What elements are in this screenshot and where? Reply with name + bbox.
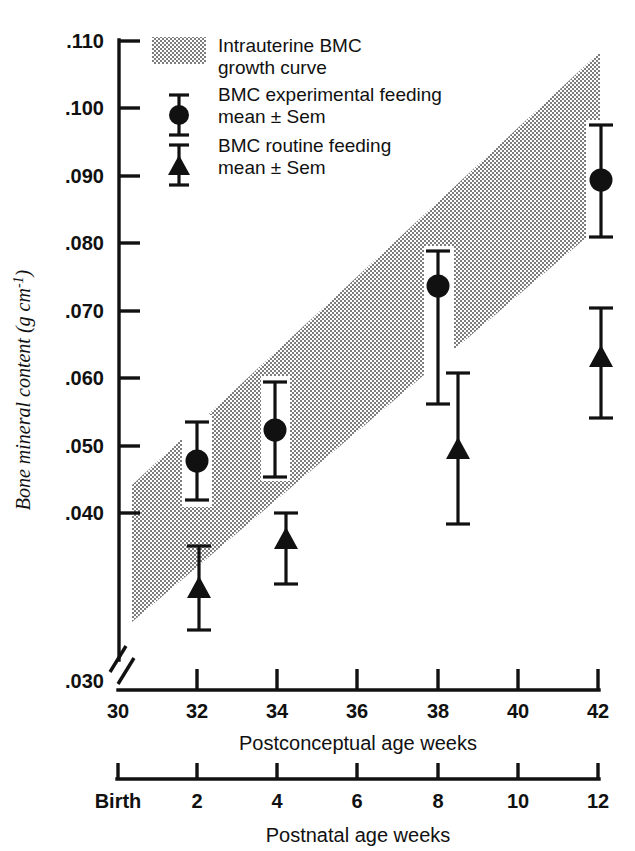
triangle-marker	[589, 345, 613, 367]
x-tick-label: 12	[587, 790, 609, 812]
legend: Intrauterine BMC growth curve BMC experi…	[152, 35, 442, 185]
x-tick-label: 40	[507, 700, 529, 722]
legend-entry-experimental: BMC experimental feeding mean ± Sem	[169, 84, 442, 135]
legend-entry-band: Intrauterine BMC growth curve	[152, 35, 362, 78]
x-axis-title-postnatal: Postnatal age weeks	[266, 824, 451, 846]
y-tick-label: .110	[66, 30, 104, 52]
triangle-marker	[187, 576, 211, 598]
x-axis-postnatal: Birth 2 4 6 8 10 12 Postnatal age weeks	[95, 763, 609, 846]
triangle-errorbar-icon	[168, 145, 190, 185]
y-tick-label: .090	[65, 165, 104, 187]
legend-label-band-line1: Intrauterine BMC	[218, 35, 362, 56]
triangle-marker	[446, 437, 470, 459]
y-tick-labels: .110 .100 .090 .080 .070 .060 .050 .040 …	[65, 30, 104, 692]
x-tick-label: 36	[346, 700, 368, 722]
x-tick-labels-postnatal: Birth 2 4 6 8 10 12	[95, 790, 609, 812]
x-tick-label: 4	[271, 790, 283, 812]
y-tick-label: .080	[65, 232, 104, 254]
y-tick-label: .040	[65, 502, 104, 524]
y-tick-label: .060	[65, 367, 104, 389]
legend-entry-routine: BMC routine feeding mean ± Sem	[168, 135, 391, 185]
data-point-routine-34	[274, 513, 298, 584]
y-tick-label: .100	[65, 97, 104, 119]
legend-label-band-line2: growth curve	[218, 57, 327, 78]
x-tick-label: 6	[351, 790, 362, 812]
legend-label-experimental-line2: mean ± Sem	[218, 106, 326, 127]
circle-marker	[590, 169, 613, 192]
x-tick-label: 2	[191, 790, 202, 812]
circle-errorbar-icon	[169, 95, 189, 135]
x-tick-label: 34	[266, 700, 289, 722]
x-axis-title-postconceptual: Postconceptual age weeks	[239, 732, 477, 754]
circle-marker	[186, 450, 209, 473]
x-tick-label: 30	[107, 700, 129, 722]
x-tick-label: 32	[186, 700, 208, 722]
x-tick-label: 8	[432, 790, 443, 812]
y-axis-title-main: Bone mineral content (g cm	[12, 288, 35, 510]
y-axis-title-close: )	[12, 269, 35, 277]
y-axis-title: Bone mineral content (g cm-1)	[11, 269, 35, 510]
x-tick-label: 42	[587, 700, 609, 722]
y-tick-label: .070	[65, 300, 104, 322]
x-tick-label: 38	[427, 700, 449, 722]
legend-label-routine-line1: BMC routine feeding	[218, 135, 391, 156]
y-tick-marks	[119, 41, 140, 513]
x-axis-postconceptual: 30 32 34 36 38 40 42 Postconceptual age …	[107, 669, 609, 754]
triangle-marker	[274, 527, 298, 549]
figure-root: .110 .100 .090 .080 .070 .060 .050 .040 …	[0, 0, 635, 851]
circle-marker	[264, 419, 287, 442]
legend-label-routine-line2: mean ± Sem	[218, 157, 326, 178]
x-tick-label: 10	[507, 790, 529, 812]
legend-label-experimental-line1: BMC experimental feeding	[218, 84, 442, 105]
y-axis-title-exponent: -1	[11, 276, 26, 288]
circle-marker	[427, 275, 450, 298]
band-swatch-icon	[152, 37, 206, 64]
data-point-routine-42	[589, 308, 613, 418]
x-tick-labels-postconceptual: 30 32 34 36 38 40 42	[107, 700, 609, 722]
bmc-growth-chart: .110 .100 .090 .080 .070 .060 .050 .040 …	[0, 0, 635, 851]
y-tick-label: .050	[65, 435, 104, 457]
x-tick-label-birth: Birth	[95, 790, 142, 812]
data-point-routine-38	[446, 373, 470, 524]
svg-text:Bone mineral content (g cm-1): Bone mineral content (g cm-1)	[11, 269, 35, 510]
y-axis: .110 .100 .090 .080 .070 .060 .050 .040 …	[11, 30, 140, 692]
y-tick-label: .030	[65, 670, 104, 692]
